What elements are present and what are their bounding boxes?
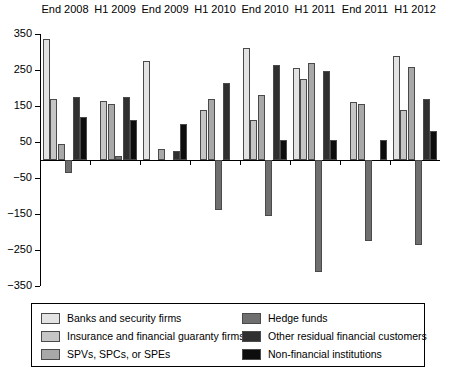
- x-axis-tick-mark: [340, 160, 341, 165]
- bar: [423, 99, 430, 160]
- bar: [100, 101, 107, 160]
- bar: [258, 95, 265, 160]
- legend-label: Insurance and financial guaranty firms: [67, 330, 244, 342]
- plot-axes-area: 35025015050−50−150−250−350: [0, 22, 456, 300]
- legend-swatch: [41, 349, 60, 360]
- bar: [65, 160, 72, 173]
- bar: [400, 110, 407, 160]
- legend-item[interactable]: SPVs, SPCs, or SPEs: [41, 346, 170, 362]
- bar: [380, 140, 387, 160]
- bar: [280, 140, 287, 160]
- legend-item[interactable]: Insurance and financial guaranty firms: [41, 328, 244, 344]
- bar: [365, 160, 372, 241]
- category-axis-labels: End 2008H1 2009End 2009H1 2010End 2010H1…: [0, 0, 456, 22]
- legend-items: Banks and security firmsInsurance and fi…: [41, 310, 419, 362]
- bar: [143, 61, 150, 160]
- bar: [265, 160, 272, 216]
- bar: [108, 104, 115, 160]
- bar: [273, 65, 280, 160]
- bar: [243, 48, 250, 160]
- legend-swatch: [41, 331, 60, 342]
- bar: [215, 160, 222, 210]
- bar: [180, 124, 187, 160]
- bar: [80, 117, 87, 160]
- legend-label: Non-financial institutions: [268, 348, 382, 360]
- bar: [415, 160, 422, 245]
- legend-swatch: [41, 313, 60, 324]
- chart-legend: Banks and security firmsInsurance and fi…: [31, 303, 425, 367]
- x-axis-tick-mark: [90, 160, 91, 165]
- legend-label: SPVs, SPCs, or SPEs: [67, 348, 170, 360]
- bar: [293, 68, 300, 160]
- bar: [408, 67, 415, 160]
- bar: [158, 149, 165, 160]
- category-label: H1 2012: [384, 2, 446, 16]
- legend-item[interactable]: Hedge funds: [242, 310, 328, 326]
- bar: [173, 151, 180, 160]
- bar: [315, 160, 322, 272]
- bar: [250, 120, 257, 160]
- legend-item[interactable]: Other residual financial customers: [242, 328, 427, 344]
- bar: [393, 56, 400, 160]
- bar-series-container: [0, 22, 456, 300]
- bar: [323, 71, 330, 160]
- x-axis-tick-mark: [190, 160, 191, 165]
- legend-swatch: [242, 349, 261, 360]
- legend-swatch: [242, 331, 261, 342]
- bar: [50, 99, 57, 160]
- x-axis-tick-mark: [40, 160, 41, 165]
- bar: [123, 97, 130, 160]
- x-axis-tick-mark: [240, 160, 241, 165]
- bar-chart-plot: End 2008H1 2009End 2009H1 2010End 2010H1…: [0, 0, 456, 300]
- bar: [223, 83, 230, 160]
- bar: [300, 79, 307, 160]
- bar: [208, 99, 215, 160]
- chart-root: End 2008H1 2009End 2009H1 2010End 2010H1…: [0, 0, 456, 379]
- bar: [308, 63, 315, 160]
- x-axis-tick-mark: [390, 160, 391, 165]
- bar: [430, 131, 437, 160]
- bar: [330, 140, 337, 160]
- bar: [358, 104, 365, 160]
- x-axis-tick-mark: [290, 160, 291, 165]
- legend-label: Other residual financial customers: [268, 330, 427, 342]
- bar: [73, 97, 80, 160]
- bar: [350, 102, 357, 160]
- bar: [58, 144, 65, 160]
- x-axis-tick-mark: [140, 160, 141, 165]
- legend-label: Hedge funds: [268, 312, 328, 324]
- legend-label: Banks and security firms: [67, 312, 181, 324]
- bar: [130, 120, 137, 160]
- legend-item[interactable]: Banks and security firms: [41, 310, 181, 326]
- bar: [200, 110, 207, 160]
- bar: [43, 39, 50, 160]
- legend-swatch: [242, 313, 261, 324]
- legend-item[interactable]: Non-financial institutions: [242, 346, 382, 362]
- bar: [115, 156, 122, 160]
